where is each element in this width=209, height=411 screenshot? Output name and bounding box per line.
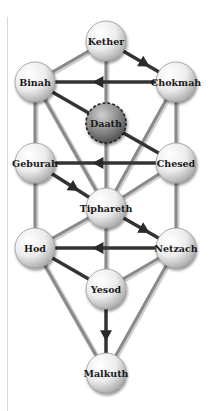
node-yesod: Yesod xyxy=(86,269,126,309)
node-label: Chokmah xyxy=(151,77,202,88)
node-daath: Daath xyxy=(86,103,126,143)
arrow-icon xyxy=(92,157,103,169)
node-binah: Binah xyxy=(15,62,55,102)
node-label: Netzach xyxy=(154,243,197,254)
node-geburah: Geburah xyxy=(12,143,58,183)
node-label: Malkuth xyxy=(83,368,128,379)
arrow-icon xyxy=(92,242,103,254)
node-hod: Hod xyxy=(15,228,55,268)
node-label: Kether xyxy=(88,36,125,47)
node-label: Chesed xyxy=(157,158,196,169)
node-label: Binah xyxy=(19,77,51,88)
node-chokmah: Chokmah xyxy=(151,62,202,102)
arrow-icon xyxy=(100,330,112,341)
node-netzach: Netzach xyxy=(154,228,197,268)
node-kether: Kether xyxy=(86,21,126,61)
tree-of-life-diagram: KetherBinahChokmahDaathGeburahChesedTiph… xyxy=(0,0,209,411)
node-malkuth: Malkuth xyxy=(83,353,128,393)
node-label: Tiphareth xyxy=(80,203,133,214)
path-netzach-malkuth xyxy=(106,248,176,373)
node-label: Hod xyxy=(24,243,46,254)
node-label: Yesod xyxy=(90,284,122,295)
node-label: Geburah xyxy=(12,158,58,169)
node-label: Daath xyxy=(90,118,122,129)
arrow-icon xyxy=(92,76,103,88)
node-chesed: Chesed xyxy=(156,143,196,183)
